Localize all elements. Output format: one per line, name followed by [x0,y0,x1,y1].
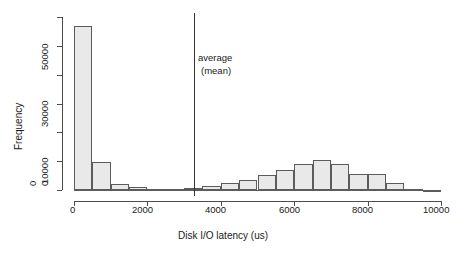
plot-area [0,0,467,262]
mean-annotation-line2: (mean) [201,65,231,78]
x-tick-label-8000: 8000 [352,205,373,215]
histogram-bar [368,174,386,190]
histogram-bar [74,26,92,190]
x-axis-tick [147,201,148,206]
x-axis-tick [294,201,295,206]
x-axis-title: Disk I/O latency (us) [178,231,268,241]
histogram-figure: Frequency 0 0 10000 30000 50000 0 2000 4… [0,0,467,262]
plot-baseline [74,190,441,191]
y-axis-tick [57,161,62,162]
x-axis-line [74,201,441,202]
y-tick-text-10000: 10000 [40,158,50,184]
y-axis-tick [57,17,62,18]
y-axis-title: Frequency [14,103,24,150]
histogram-bar [386,183,404,190]
histogram-bar [313,160,331,190]
y-axis-line [62,17,63,190]
y-tick-text-50000: 50000 [40,44,50,70]
histogram-bar [349,174,367,190]
histogram-bar [221,183,239,190]
y-axis-tick [57,46,62,47]
x-tick-label-6000: 6000 [279,205,300,215]
histogram-bar [92,162,110,190]
x-axis-tick [74,201,75,206]
y-axis-tick [57,190,62,191]
y-axis-tick [57,75,62,76]
x-tick-label-10000: 10000 [423,205,449,215]
y-tick-label-0: 0 [28,181,38,186]
y-axis-tick [57,104,62,105]
mean-annotation-line1: average [198,52,232,65]
x-axis-tick [221,201,222,206]
histogram-bar [331,164,349,190]
histogram-bar [294,164,312,190]
histogram-bar [239,180,257,190]
y-tick-text-30000: 30000 [40,101,50,127]
histogram-bar [258,175,276,190]
histogram-bar [276,170,294,190]
x-tick-label-0: 0 [70,205,75,215]
y-axis-tick [57,132,62,133]
x-axis-tick [441,201,442,206]
x-tick-label-4000: 4000 [205,205,226,215]
x-tick-label-2000: 2000 [132,205,153,215]
x-axis-tick [368,201,369,206]
mean-vertical-line [194,13,195,196]
